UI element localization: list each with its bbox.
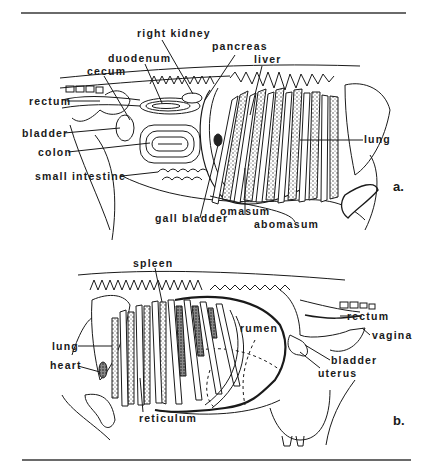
label-uterus: uterus [318,368,357,379]
panel-label-b: b. [393,413,405,428]
label-pancreas: pancreas [212,41,268,52]
label-gall-bladder: gall bladder [155,213,228,224]
anatomy-drawing [0,0,426,474]
label-heart: heart [50,360,82,371]
label-reticulum: reticulum [139,413,197,424]
label-spleen: spleen [133,258,173,269]
label-bladder: bladder [22,128,68,139]
label-lung-b: lung [52,341,79,352]
label-lung-a: lung [364,134,391,145]
label-omasum: omasum [220,206,270,217]
panel-label-a: a. [393,179,404,194]
label-colon: colon [38,147,72,158]
label-liver: liver [254,54,282,65]
label-small-intestine: small intestine [35,171,126,182]
label-rumen: rumen [240,323,278,334]
label-bladder-b: bladder [331,355,377,366]
label-vagina: vagina [372,330,412,341]
label-rectum-b: rectum [347,311,389,322]
label-duodenum: duodenum [108,53,171,64]
label-right-kidney: right kidney [137,28,211,39]
label-cecum: cecum [87,66,126,77]
label-abomasum: abomasum [254,219,319,230]
label-rectum: rectum [29,96,71,107]
